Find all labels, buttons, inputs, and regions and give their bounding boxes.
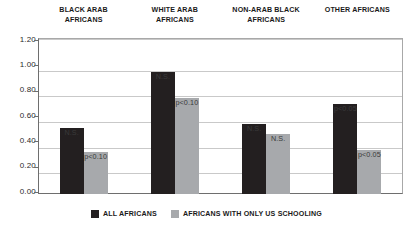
bar[interactable] [266, 134, 290, 194]
bar-group: N.S.N.S. [221, 38, 312, 194]
significance-annotation: p<0.05 [348, 150, 390, 159]
bar[interactable] [333, 104, 357, 194]
significance-annotation: p<0.05 [324, 104, 366, 113]
legend-label: ALL AFRICANS [103, 210, 157, 218]
category-header-line: NON-ARAB BLACK [221, 6, 312, 16]
bar[interactable] [151, 72, 175, 194]
y-axis-tick-label: 1.20 [0, 35, 36, 44]
y-axis-tick-label: 0.00 [0, 187, 36, 196]
category-header-line: OTHER AFRICANS [312, 6, 403, 16]
bar[interactable] [175, 98, 199, 194]
category-header: WHITE ARABAFRICANS [129, 4, 220, 34]
y-axis-tick-label: 1.00 [0, 60, 36, 69]
legend-swatch-icon [171, 210, 179, 218]
category-header-line: AFRICANS [38, 16, 129, 26]
category-header-line: BLACK ARAB [38, 6, 129, 16]
chart-legend: ALL AFRICANSAFRICANS WITH ONLY US SCHOOL… [0, 210, 413, 218]
category-header-line: WHITE ARAB [129, 6, 220, 16]
significance-annotation: N.S. [51, 128, 93, 137]
bar-groups: N.S.p<0.10N.S.p<0.10N.S.N.S.p<0.05p<0.05 [38, 38, 403, 194]
bar[interactable] [60, 128, 84, 194]
legend-item[interactable]: AFRICANS WITH ONLY US SCHOOLING [171, 210, 322, 218]
legend-item[interactable]: ALL AFRICANS [91, 210, 157, 218]
significance-annotation: N.S. [142, 72, 184, 81]
y-axis-tick-label: 0.80 [0, 85, 36, 94]
bar-group: N.S.p<0.10 [38, 38, 129, 194]
bar-group: N.S.p<0.10 [129, 38, 220, 194]
category-header: OTHER AFRICANS [312, 4, 403, 34]
legend-swatch-icon [91, 210, 99, 218]
bar-chart: BLACK ARABAFRICANSWHITE ARABAFRICANSNON-… [0, 0, 413, 232]
category-header-line: AFRICANS [129, 16, 220, 26]
category-header-line: AFRICANS [221, 16, 312, 26]
category-header: BLACK ARABAFRICANS [38, 4, 129, 34]
significance-annotation: N.S. [257, 134, 299, 143]
significance-annotation: N.S. [233, 124, 275, 133]
category-header-row: BLACK ARABAFRICANSWHITE ARABAFRICANSNON-… [38, 4, 403, 34]
bar-group: p<0.05p<0.05 [312, 38, 403, 194]
y-axis-tick-label: 0.40 [0, 136, 36, 145]
y-axis-tick-label: 0.20 [0, 161, 36, 170]
y-axis-tick-label: 0.60 [0, 111, 36, 120]
category-header: NON-ARAB BLACKAFRICANS [221, 4, 312, 34]
significance-annotation: p<0.10 [75, 152, 117, 161]
legend-label: AFRICANS WITH ONLY US SCHOOLING [183, 210, 322, 218]
significance-annotation: p<0.10 [166, 98, 208, 107]
